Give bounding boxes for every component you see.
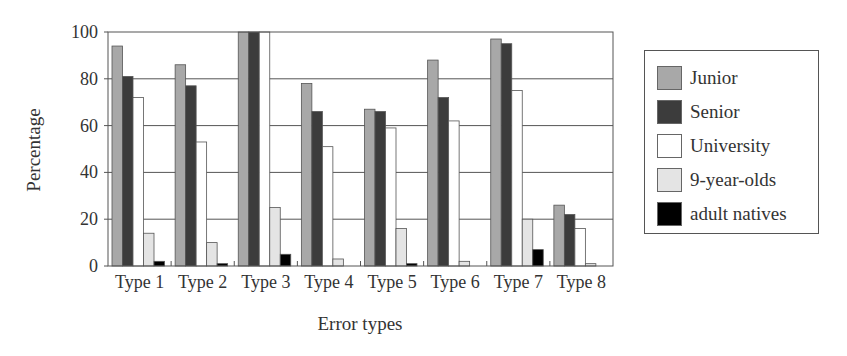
x-axis-title: Error types [318,313,403,334]
legend-item: adult natives [657,201,787,227]
y-tick-label: 40 [80,162,98,182]
bar-junior [238,32,249,266]
bar-university [386,128,397,266]
legend-item: Senior [657,99,740,125]
legend-swatch [657,100,682,124]
x-tick-label: Type 4 [304,272,353,292]
bar-junior [301,83,312,266]
bar-senior [564,215,575,266]
x-axis-labels: Type 1Type 2Type 3Type 4Type 5Type 6Type… [115,272,606,292]
legend-item: 9-year-olds [657,167,776,193]
legend-swatch [657,66,682,90]
y-tick-label: 0 [89,256,98,276]
x-tick-label: Type 5 [367,272,416,292]
legend-label: Junior [690,67,738,89]
bars [112,32,596,266]
bar-senior [186,86,197,266]
y-axis-title: Percentage [23,108,44,191]
legend-item: Junior [657,65,738,91]
bar-junior [554,205,565,266]
bar-9-year-olds [459,261,470,266]
bar-junior [428,60,439,266]
bar-9-year-olds [396,229,407,266]
bar-university [196,142,207,266]
bar-senior [249,32,260,266]
bar-junior [175,65,186,266]
bar-university [575,229,586,266]
legend-label: University [690,135,770,157]
bar-9-year-olds [207,243,218,266]
bar-junior [112,46,123,266]
legend-swatch [657,202,682,226]
bar-adult-natives [533,250,544,266]
y-tick-label: 80 [80,69,98,89]
x-tick-label: Type 3 [241,272,290,292]
legend-item: University [657,133,770,159]
y-axis: 020406080100 [71,22,108,276]
bar-senior [123,76,134,266]
legend-label: 9-year-olds [690,169,776,191]
bar-9-year-olds [270,208,281,267]
x-tick-label: Type 8 [557,272,606,292]
bar-9-year-olds [333,259,344,266]
bar-university [512,91,523,267]
legend-swatch [657,168,682,192]
bar-9-year-olds [522,219,533,266]
bar-university [322,147,333,266]
legend-label: adult natives [690,203,787,225]
x-tick-label: Type 2 [178,272,227,292]
x-tick-label: Type 6 [431,272,480,292]
bar-university [259,32,270,266]
bar-adult-natives [154,261,165,266]
x-tick-label: Type 7 [494,272,543,292]
bar-junior [491,39,502,266]
legend-label: Senior [690,101,740,123]
bar-senior [312,112,323,266]
bar-university [133,98,144,266]
bar-university [449,121,460,266]
y-tick-label: 60 [80,116,98,136]
x-tick-label: Type 1 [115,272,164,292]
bar-senior [501,44,512,266]
y-tick-label: 100 [71,22,98,42]
legend-swatch [657,134,682,158]
bar-adult-natives [280,254,291,266]
bar-senior [375,112,386,266]
bar-9-year-olds [144,233,155,266]
bar-junior [365,109,376,266]
legend: JuniorSeniorUniversity9-year-oldsadult n… [644,50,819,234]
bar-senior [438,98,449,266]
y-tick-label: 20 [80,209,98,229]
